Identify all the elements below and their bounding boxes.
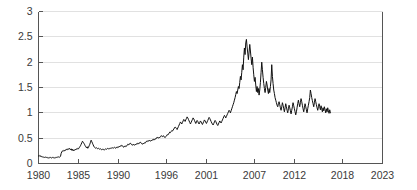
x-tick-label: 1990 [107,169,131,181]
x-tick-label: 2007 [243,169,267,181]
y-tick-label: 0 [27,157,33,169]
x-axis-labels: 198019851990199620012007201220182023 [27,169,395,181]
x-tick-label: 2023 [371,169,395,181]
x-tick-label: 2012 [283,169,307,181]
y-tick-label: 1.5 [18,81,33,93]
x-tick-label: 2018 [331,169,355,181]
x-tick-label: 1985 [67,169,91,181]
y-axis-labels: 00.511.522.53 [18,5,33,169]
x-axis-ticks [39,159,383,164]
x-tick-label: 2001 [195,169,219,181]
y-axis-ticks [39,12,43,164]
y-tick-label: 2.5 [18,30,33,42]
y-tick-label: 1 [27,106,33,118]
y-tick-label: 2 [27,56,33,68]
line-chart: 198019851990199620012007201220182023 00.… [0,0,417,190]
y-tick-label: 0.5 [18,132,33,144]
x-tick-label: 1980 [27,169,51,181]
data-series-line [39,39,331,158]
x-tick-label: 1996 [155,169,179,181]
y-tick-label: 3 [27,5,33,17]
chart-container: 198019851990199620012007201220182023 00.… [0,0,417,190]
